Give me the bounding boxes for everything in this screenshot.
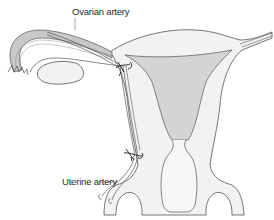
uterine-artery-label: Uterine artery — [62, 176, 117, 187]
anatomy-illustration — [0, 0, 274, 220]
uterus-diagram: Ovarian artery Uterine artery — [0, 0, 274, 220]
ovary — [37, 61, 83, 84]
ovarian-artery-label: Ovarian artery — [72, 6, 129, 17]
